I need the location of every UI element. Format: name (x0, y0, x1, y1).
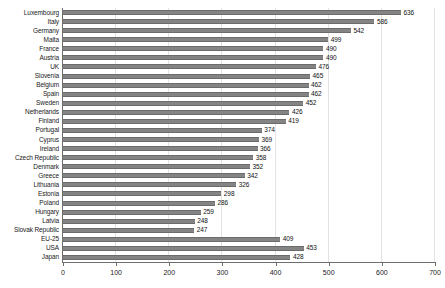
bar-value-label: 462 (311, 81, 322, 89)
category-label: Denmark (0, 163, 59, 171)
bar (63, 83, 309, 88)
category-label: France (0, 45, 59, 53)
bar-row: EU-25409 (0, 235, 445, 244)
x-axis-tick-mark (222, 262, 223, 266)
bar-row: France490 (0, 44, 445, 53)
bar-row: Finland419 (0, 117, 445, 126)
bar-value-label: 358 (256, 154, 267, 162)
bar-value-label: 248 (197, 217, 208, 225)
bar-row: Estonia298 (0, 189, 445, 198)
bar-value-label: 453 (306, 244, 317, 252)
category-label: Lithuania (0, 181, 59, 189)
bar-row: Austria490 (0, 53, 445, 62)
category-label: Hungary (0, 208, 59, 216)
bar (63, 137, 259, 142)
bar-row: Greece342 (0, 171, 445, 180)
bar-value-label: 326 (239, 181, 250, 189)
bar-row: Belgium462 (0, 81, 445, 90)
bar (63, 219, 195, 224)
bar (63, 246, 304, 251)
bar (63, 119, 286, 124)
x-axis-tick-label: 100 (101, 268, 131, 277)
bar-value-label: 636 (403, 9, 414, 17)
bar-value-label: 428 (293, 253, 304, 261)
bar-row: Slovak Republic247 (0, 226, 445, 235)
x-axis-tick-label: 300 (207, 268, 237, 277)
bar-value-label: 342 (247, 172, 258, 180)
bar-value-label: 298 (224, 190, 235, 198)
x-axis-tick-mark (276, 262, 277, 266)
bar-value-label: 352 (253, 163, 264, 171)
category-label: Luxembourg (0, 9, 59, 17)
bar (63, 201, 215, 206)
bar-value-label: 426 (292, 108, 303, 116)
x-axis-tick-mark (435, 262, 436, 266)
bar-row: Spain462 (0, 90, 445, 99)
bar (63, 128, 262, 133)
bar (63, 74, 310, 79)
bar-value-label: 542 (354, 27, 365, 35)
bar-row: Luxembourg636 (0, 8, 445, 17)
category-label: Czech Republic (0, 154, 59, 162)
bar-row: Cyprus369 (0, 135, 445, 144)
bar-value-label: 462 (311, 90, 322, 98)
category-label: Greece (0, 172, 59, 180)
bar (63, 164, 250, 169)
category-label: Cyprus (0, 136, 59, 144)
bar-row: Portugal374 (0, 126, 445, 135)
category-label: Estonia (0, 190, 59, 198)
x-axis-tick-mark (169, 262, 170, 266)
x-axis-tick-label: 0 (48, 268, 78, 277)
category-label: Austria (0, 54, 59, 62)
category-label: Spain (0, 90, 59, 98)
bar-row: UK476 (0, 62, 445, 71)
category-label: Ireland (0, 145, 59, 153)
bar-row: Slovenia465 (0, 72, 445, 81)
bar-value-label: 374 (264, 126, 275, 134)
bar (63, 228, 194, 233)
bar (63, 110, 289, 115)
bar-row: Denmark352 (0, 162, 445, 171)
bar-row: Latvia248 (0, 217, 445, 226)
bar-value-label: 409 (283, 235, 294, 243)
bar-value-label: 452 (306, 99, 317, 107)
bar-row: Germany542 (0, 26, 445, 35)
category-label: Germany (0, 27, 59, 35)
bar-rows: Luxembourg636Italy586Germany542Malta499F… (0, 8, 445, 262)
x-axis-tick-mark (329, 262, 330, 266)
category-label: Netherlands (0, 108, 59, 116)
bar-value-label: 465 (313, 72, 324, 80)
bar-row: Lithuania326 (0, 180, 445, 189)
bar (63, 92, 309, 97)
bar-row: USA453 (0, 244, 445, 253)
x-axis-tick-label: 500 (314, 268, 344, 277)
bar (63, 19, 374, 24)
bar (63, 155, 253, 160)
bar-row: Italy586 (0, 17, 445, 26)
bar (63, 146, 258, 151)
bar-value-label: 369 (262, 136, 273, 144)
bar (63, 255, 290, 260)
bar (63, 46, 323, 51)
category-label: Portugal (0, 126, 59, 134)
bar-value-label: 490 (326, 45, 337, 53)
category-label: EU-25 (0, 235, 59, 243)
bar-value-label: 366 (260, 145, 271, 153)
bar (63, 237, 280, 242)
bar-chart: Luxembourg636Italy586Germany542Malta499F… (0, 0, 445, 288)
bar (63, 37, 328, 42)
bar-row: Netherlands426 (0, 108, 445, 117)
bar-value-label: 499 (331, 36, 342, 44)
bar-row: Poland286 (0, 199, 445, 208)
bar-row: Hungary259 (0, 208, 445, 217)
bar-row: Ireland366 (0, 144, 445, 153)
category-label: Latvia (0, 217, 59, 225)
bar-value-label: 419 (288, 117, 299, 125)
category-label: USA (0, 244, 59, 252)
category-label: Japan (0, 253, 59, 261)
bar-value-label: 586 (377, 18, 388, 26)
category-label: UK (0, 63, 59, 71)
bar (63, 182, 236, 187)
x-axis-tick-mark (63, 262, 64, 266)
category-label: Slovak Republic (0, 226, 59, 234)
